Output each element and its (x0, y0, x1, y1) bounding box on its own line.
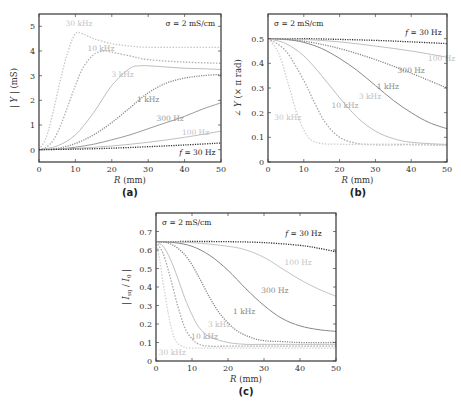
x-tick-label: 50 (216, 165, 226, 174)
y-tick-label: 0.2 (251, 109, 264, 118)
y-tick-label: 0.3 (139, 302, 152, 311)
series-label: 10 kHz (87, 44, 114, 53)
series-label: 300 Hz (261, 286, 288, 295)
y-tick-label: 0.7 (139, 228, 152, 237)
y-tick-label: 0 (259, 158, 264, 167)
y-tick-label: 0.4 (251, 59, 264, 68)
series-label: 300 Hz (398, 66, 425, 75)
conductivity-annotation: σ = 2 mS/cm (162, 218, 211, 227)
x-tick-label: 50 (442, 165, 452, 174)
y-axis-label: | Y | (mS) (9, 68, 20, 108)
y-tick-label: 0 (30, 146, 35, 155)
x-tick-label: 20 (107, 165, 117, 174)
x-axis-label: R (mm) (113, 175, 146, 185)
curves (268, 39, 447, 146)
series-line (268, 39, 447, 146)
series-label: 3 kHz (359, 92, 381, 101)
x-tick-label: 0 (153, 364, 158, 373)
y-tick-label: 0.1 (251, 133, 264, 142)
series-label: f = 30 Hz (404, 28, 441, 37)
series-line (156, 242, 336, 297)
series-label: 1 kHz (377, 82, 399, 91)
y-tick-label: 0.1 (139, 339, 152, 348)
x-tick-label: 10 (187, 364, 197, 373)
series-label: 3 kHz (112, 70, 134, 79)
x-tick-label: 30 (143, 165, 153, 174)
y-axis-label: ∠ Y (× π rad) (233, 59, 243, 116)
chart-panel-c: f = 30 Hz100 Hz300 Hz1 kHz3 kHz10 kHz30 … (121, 213, 341, 384)
x-tick-label: 10 (70, 165, 80, 174)
y-tick-label: 4 (30, 47, 35, 56)
y-tick-label: 2 (30, 96, 35, 105)
series-label: 1 kHz (137, 95, 159, 104)
conductivity-annotation: σ = 2 mS/cm (166, 19, 215, 28)
y-tick-label: 0.3 (251, 84, 264, 93)
series-line (268, 39, 447, 58)
x-axis-label: R (mm) (341, 175, 374, 185)
x-axis-label: R (mm) (229, 374, 262, 384)
series-line (268, 39, 447, 145)
conductivity-annotation: σ = 2 mS/cm (274, 19, 323, 28)
x-tick-label: 10 (299, 165, 309, 174)
x-tick-label: 50 (331, 364, 341, 373)
series-label: 10 kHz (191, 332, 218, 341)
series-label: 1 kHz (233, 307, 255, 316)
x-tick-label: 0 (265, 165, 270, 174)
x-tick-label: 40 (406, 165, 416, 174)
caption-b: (b) (350, 187, 366, 198)
series-label: 10 kHz (331, 101, 358, 110)
chart-panel-a: 30 kHz10 kHz3 kHz1 kHz300 Hz100 Hzf = 30… (9, 14, 226, 185)
x-tick-label: 40 (295, 364, 305, 373)
series-label: 30 kHz (159, 348, 186, 357)
series-line (268, 39, 447, 145)
series-label: 100 Hz (182, 128, 209, 137)
caption-c: (c) (238, 386, 253, 397)
y-tick-label: 1 (30, 121, 35, 130)
series-line (39, 103, 221, 150)
y-tick-label: 0.5 (251, 35, 264, 44)
y-tick-label: 3 (30, 72, 35, 81)
x-tick-label: 30 (370, 165, 380, 174)
x-tick-label: 20 (223, 364, 233, 373)
y-tick-label: 0 (147, 357, 152, 366)
y-tick-label: 0.5 (139, 265, 152, 274)
series-label: 100 Hz (428, 54, 455, 63)
series-label: 30 kHz (274, 113, 301, 122)
x-tick-label: 40 (180, 165, 190, 174)
series-label: 30 kHz (66, 19, 93, 28)
caption-a: (a) (122, 187, 138, 198)
y-tick-label: 5 (30, 22, 35, 31)
series-label: f = 30 Hz (284, 229, 321, 238)
plot-frame (39, 14, 221, 162)
series-label: 300 Hz (156, 114, 183, 123)
x-tick-label: 30 (259, 364, 269, 373)
series-line (156, 242, 336, 332)
series-label: 3 kHz (208, 320, 230, 329)
series-label: f = 30 Hz (178, 148, 215, 157)
y-tick-label: 0.4 (139, 283, 152, 292)
figure: 30 kHz10 kHz3 kHz1 kHz300 Hz100 Hzf = 30… (0, 0, 461, 406)
x-tick-label: 20 (335, 165, 345, 174)
y-axis-label: | Isq / I0 | (121, 269, 133, 305)
x-tick-label: 0 (36, 165, 41, 174)
chart-panel-b: f = 30 Hz100 Hz300 Hz1 kHz3 kHz10 kHz30 … (233, 14, 455, 185)
y-tick-label: 0.2 (139, 320, 152, 329)
y-tick-label: 0.6 (139, 246, 152, 255)
series-label: 100 Hz (285, 258, 312, 267)
